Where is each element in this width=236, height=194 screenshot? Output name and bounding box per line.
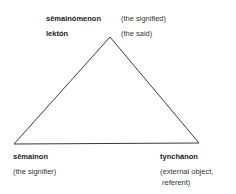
term-tynchanon: tynchánon — [160, 152, 198, 161]
gloss-signified: (the signified) — [121, 14, 166, 23]
gloss-referent: referent) — [162, 178, 190, 187]
gloss-external-object: (external object, — [160, 167, 213, 176]
edge-bottom — [14, 143, 199, 144]
term-semainon: sēmainon — [13, 152, 48, 161]
term-lekton: lektón — [46, 29, 68, 38]
triangle-diagram — [0, 0, 236, 194]
edge-top-left — [14, 37, 110, 144]
gloss-signifier: (the signifier) — [13, 167, 56, 176]
term-semainomenon: sēmainómenon — [46, 14, 101, 23]
gloss-said: (the said) — [121, 29, 152, 38]
edge-top-right — [110, 37, 199, 143]
